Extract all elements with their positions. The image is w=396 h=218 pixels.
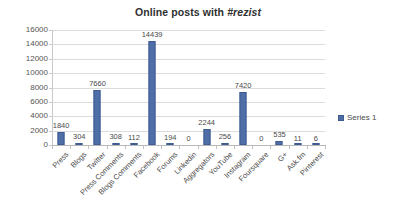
chart-title-emphasis: #rezist (227, 6, 261, 18)
x-axis-line (52, 145, 326, 146)
bar-slot: 308 (107, 30, 125, 145)
x-axis-category-labels: PressBlogsTwitterPress CommentsBlogs Com… (52, 150, 325, 216)
legend-label-series-1: Series 1 (347, 113, 376, 122)
x-axis-tick-mark (125, 146, 126, 149)
bar[interactable] (203, 129, 210, 145)
chart-legend: Series 1 (338, 113, 376, 122)
x-axis-tick-mark (52, 146, 53, 149)
x-axis-tick-mark (252, 146, 253, 149)
y-axis-tick-label: 14000 (2, 40, 48, 48)
bar-value-label: 14439 (142, 31, 163, 39)
x-axis-tick-mark (198, 146, 199, 149)
bar-slot: 7420 (234, 30, 252, 145)
bar-value-label: 304 (73, 133, 86, 141)
x-axis-category-label: Press (51, 150, 71, 170)
bar-slot: 112 (125, 30, 143, 145)
bar[interactable] (276, 141, 283, 145)
y-axis-tick-label: 2000 (2, 127, 48, 135)
bar[interactable] (167, 143, 174, 145)
y-axis-tick-labels: 0200040006000800010000120001400016000 (0, 30, 48, 146)
bar-value-label: 308 (109, 133, 122, 141)
bar-series-layer: 1840304766030811214439194022442567420053… (52, 30, 325, 145)
x-axis-tick-mark (179, 146, 180, 149)
x-axis-tick-mark (289, 146, 290, 149)
bar[interactable] (112, 143, 119, 145)
bar-slot: 11 (289, 30, 307, 145)
x-axis-tick-mark (307, 146, 308, 149)
bar-slot: 14439 (143, 30, 161, 145)
bar-value-label: 256 (219, 133, 232, 141)
x-axis-tick-mark (325, 146, 326, 149)
x-axis-tick-mark (270, 146, 271, 149)
bar-value-label: 0 (259, 135, 263, 143)
y-axis-tick-label: 4000 (2, 112, 48, 120)
x-axis-tick-mark (234, 146, 235, 149)
y-axis-tick-label: 6000 (2, 98, 48, 106)
bar-value-label: 6 (314, 135, 318, 143)
bar-value-label: 1840 (53, 122, 70, 130)
bar-value-label: 194 (164, 134, 177, 142)
y-axis-tick-label: 10000 (2, 69, 48, 77)
bar[interactable] (58, 132, 65, 145)
x-axis-tick-mark (161, 146, 162, 149)
bar-slot: 256 (216, 30, 234, 145)
bar-slot: 1840 (52, 30, 70, 145)
bar[interactable] (149, 41, 156, 145)
x-axis-tick-mark (88, 146, 89, 149)
bar-slot: 6 (307, 30, 325, 145)
bar-slot: 194 (161, 30, 179, 145)
y-axis-tick-label: 8000 (2, 84, 48, 92)
bar[interactable] (312, 143, 319, 145)
bar-value-label: 7420 (235, 82, 252, 90)
chart-container: Online posts with #rezist 02000400060008… (0, 0, 396, 218)
bar-slot: 7660 (88, 30, 106, 145)
bar-value-label: 535 (273, 131, 286, 139)
bar-value-label: 2244 (198, 119, 215, 127)
y-axis-tick-label: 0 (2, 141, 48, 149)
bar-value-label: 11 (294, 135, 302, 143)
bar-value-label: 112 (128, 134, 140, 142)
chart-title: Online posts with #rezist (0, 6, 396, 18)
bar-value-label: 0 (186, 135, 190, 143)
bar-slot: 304 (70, 30, 88, 145)
bar-slot: 0 (179, 30, 197, 145)
bar-slot: 2244 (198, 30, 216, 145)
y-axis-tick-label: 16000 (2, 26, 48, 34)
bar[interactable] (94, 90, 101, 145)
chart-title-plain: Online posts with (135, 6, 227, 18)
x-axis-tick-mark (107, 146, 108, 149)
bar[interactable] (130, 143, 137, 145)
bar-slot: 0 (252, 30, 270, 145)
x-axis-tick-mark (143, 146, 144, 149)
x-axis-tick-mark (216, 146, 217, 149)
x-axis-tick-mark (70, 146, 71, 149)
bar[interactable] (76, 143, 83, 145)
bar-slot: 535 (270, 30, 288, 145)
x-axis-category-label: G+ (275, 150, 289, 164)
legend-swatch-series-1 (338, 115, 344, 121)
bar[interactable] (240, 92, 247, 145)
bar[interactable] (221, 143, 228, 145)
bar-value-label: 7660 (89, 80, 106, 88)
bar[interactable] (294, 143, 301, 145)
y-axis-tick-label: 12000 (2, 55, 48, 63)
